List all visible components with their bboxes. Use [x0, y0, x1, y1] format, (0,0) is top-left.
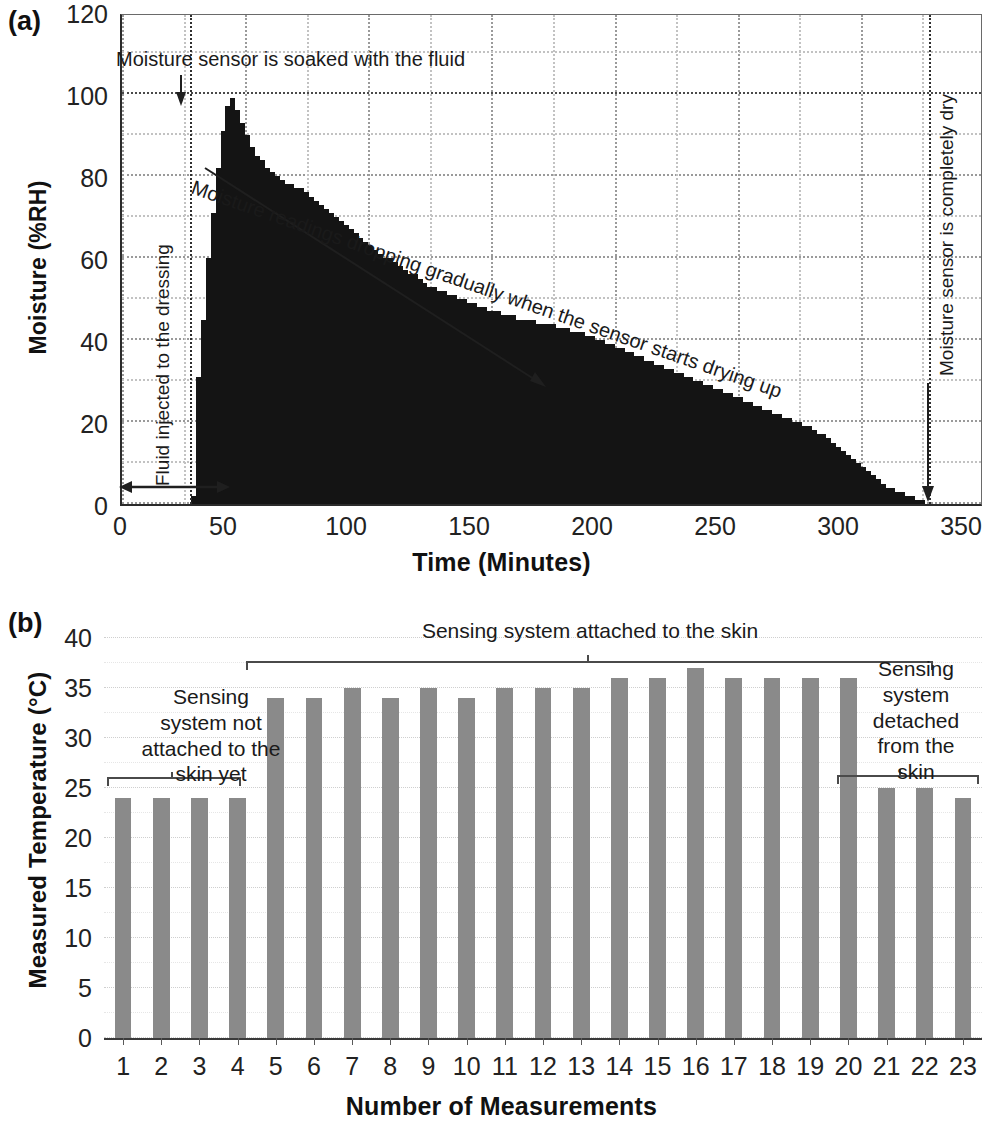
panel-a-annotation-soaked: Moisture sensor is soaked with the fluid: [116, 48, 465, 71]
panel-b-tick: [696, 1038, 697, 1045]
panel-b-tick: [543, 1038, 544, 1045]
panel-b-ytick-25: 25: [22, 774, 92, 803]
panel-b-tick: [428, 1038, 429, 1045]
panel-a-ytick-20: 20: [30, 410, 108, 439]
panel-a-bar: [920, 500, 925, 504]
panel-b-bar: [916, 788, 933, 1038]
panel-b-tick: [123, 1038, 124, 1045]
panel-b-tick: [238, 1038, 239, 1045]
panel-b-ytick-35: 35: [22, 674, 92, 703]
panel-b-tick: [352, 1038, 353, 1045]
panel-a-ytick-120: 120: [30, 0, 108, 29]
panel-b-tick: [925, 1038, 926, 1045]
panel-a-xtick-350: 350: [931, 512, 991, 541]
panel-b-ytick-20: 20: [22, 824, 92, 853]
panel-a-injection-marker: [190, 15, 192, 506]
panel-b-tick: [658, 1038, 659, 1045]
panel-b-bar: [611, 678, 628, 1038]
panel-a-xtick-300: 300: [808, 512, 868, 541]
panel-b-bar: [229, 798, 246, 1038]
panel-b-bar: [458, 698, 475, 1038]
panel-b-bar: [115, 798, 132, 1038]
panel-b-bar: [649, 678, 666, 1038]
panel-b-tick: [810, 1038, 811, 1045]
panel-b-bar: [535, 688, 552, 1038]
panel-b-bar: [191, 798, 208, 1038]
panel-a-xtick-150: 150: [439, 512, 499, 541]
panel-b-annotation-attached: Sensing system attached to the skin: [330, 618, 850, 644]
panel-b-tick: [467, 1038, 468, 1045]
panel-a-xtick-100: 100: [316, 512, 376, 541]
panel-b-ytick-40: 40: [22, 624, 92, 653]
panel-b-tick: [199, 1038, 200, 1045]
panel-b-bar: [306, 698, 323, 1038]
panel-b-tick: [161, 1038, 162, 1045]
panel-b-x-axis-title: Number of Measurements: [0, 1092, 1003, 1121]
panel-b-temperature-chart: (b) Measured Temperature (°C) 40 35 30 2…: [0, 600, 1003, 1135]
panel-b-bar: [496, 688, 513, 1038]
panel-a-xtick-200: 200: [562, 512, 622, 541]
panel-b-ytick-30: 30: [22, 724, 92, 753]
panel-b-ytick-15: 15: [22, 874, 92, 903]
panel-b-tick: [505, 1038, 506, 1045]
panel-b-bar: [573, 688, 590, 1038]
panel-b-tick: [734, 1038, 735, 1045]
panel-b-bar: [764, 678, 781, 1038]
panel-a-annotation-fluid-injected: Fluid injected to the dressing: [152, 244, 174, 486]
panel-b-tick: [390, 1038, 391, 1045]
panel-b-tick: [963, 1038, 964, 1045]
panel-a-ytick-80: 80: [30, 164, 108, 193]
panel-a-xtick-50: 50: [193, 512, 253, 541]
panel-b-tick: [887, 1038, 888, 1045]
panel-a-x-axis-title: Time (Minutes): [0, 548, 1003, 577]
panel-a-ytick-60: 60: [30, 246, 108, 275]
panel-b-ytick-5: 5: [22, 974, 92, 1003]
panel-b-bar: [802, 678, 819, 1038]
panel-b-ytick-0: 0: [22, 1024, 92, 1053]
panel-b-annotation-detached: Sensingsystemdetachedfrom theskin: [846, 656, 986, 785]
panel-b-bar: [725, 678, 742, 1038]
panel-b-tick: [581, 1038, 582, 1045]
panel-b-bar: [382, 698, 399, 1038]
panel-b-tick: [619, 1038, 620, 1045]
panel-b-bar: [153, 798, 170, 1038]
panel-a-bars: [122, 15, 981, 504]
panel-b-bar: [344, 688, 361, 1038]
panel-b-bar: [687, 668, 704, 1038]
panel-b-bar: [955, 798, 972, 1038]
panel-a-annotation-completely-dry: Moisture sensor is completely dry: [936, 94, 958, 376]
panel-b-tick: [848, 1038, 849, 1045]
panel-b-tick: [314, 1038, 315, 1045]
panel-a-moisture-chart: (a) Moisture (%RH) 120 100 80 60 40 20 0…: [0, 0, 1003, 600]
panel-b-annotation-not-attached: Sensingsystem notattached to theskin yet: [116, 684, 306, 787]
panel-a-ytick-40: 40: [30, 328, 108, 357]
panel-a-plot-area: [120, 14, 982, 506]
panel-b-bar: [878, 788, 895, 1038]
panel-a-xtick-0: 0: [90, 512, 150, 541]
panel-b-xtick-23: 23: [938, 1052, 988, 1081]
panel-b-bar: [420, 688, 437, 1038]
panel-b-ytick-10: 10: [22, 924, 92, 953]
panel-b-tick: [772, 1038, 773, 1045]
panel-b-tick: [276, 1038, 277, 1045]
panel-a-dry-marker: [929, 15, 931, 506]
panel-a-xtick-250: 250: [685, 512, 745, 541]
panel-a-ytick-100: 100: [30, 82, 108, 111]
